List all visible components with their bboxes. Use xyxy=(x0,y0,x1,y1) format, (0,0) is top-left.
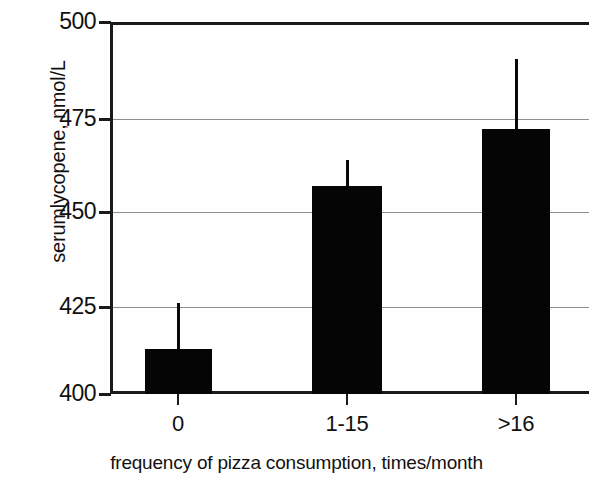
y-tick-label-500: 500 xyxy=(6,10,96,33)
bar-category-1-15 xyxy=(312,186,382,394)
error-bar-0 xyxy=(177,303,180,350)
x-tick-label-gt16: >16 xyxy=(446,412,586,436)
error-bar-1-15 xyxy=(346,160,349,188)
y-axis-title: serumlycopene, nmol/L xyxy=(47,12,70,312)
x-tick-mark-0 xyxy=(177,394,179,405)
y-tick-label-400: 400 xyxy=(6,382,96,405)
y-tick-label-425: 425 xyxy=(6,295,96,318)
x-tick-mark-1-15 xyxy=(346,394,348,405)
x-tick-label-0: 0 xyxy=(108,412,248,436)
x-axis-title: frequency of pizza consumption, times/mo… xyxy=(0,452,593,474)
x-tick-label-1-15: 1-15 xyxy=(277,412,417,436)
y-tick-label-475: 475 xyxy=(6,107,96,130)
x-tick-mark-gt16 xyxy=(515,394,517,405)
error-bar-gt16 xyxy=(515,59,518,131)
y-tick-label-450: 450 xyxy=(6,200,96,223)
bar-category-0 xyxy=(145,349,212,394)
bar-chart-figure: serumlycopene, nmol/L 500 475 450 425 40… xyxy=(0,0,593,482)
bar-category-gt16 xyxy=(482,129,550,394)
